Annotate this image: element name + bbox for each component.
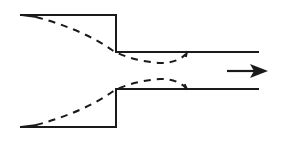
pipe-contraction-diagram (0, 0, 281, 144)
upper-reattachment-tick (186, 52, 187, 56)
flow-arrow-icon (227, 64, 268, 78)
upper-streamline (36, 17, 186, 63)
lower-streamline (36, 79, 186, 125)
